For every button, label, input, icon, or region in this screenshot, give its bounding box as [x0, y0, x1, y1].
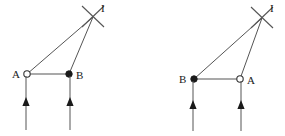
diagram-canvas: A B I: [0, 0, 285, 136]
point-marker-open-circle-a: [237, 76, 243, 82]
incident-arrow-right: [66, 76, 73, 130]
point-marker-open-circle-a: [24, 71, 30, 77]
incident-arrow-left: [189, 81, 196, 131]
ray-a-to-i: [240, 18, 262, 79]
label-image-point-i: I: [101, 2, 105, 14]
ray-diagram-figure: A B I: [0, 0, 285, 136]
incident-arrow-right: [237, 81, 244, 131]
incident-arrow-left: [22, 76, 29, 130]
label-point-b: B: [76, 69, 83, 81]
label-point-a: A: [247, 74, 255, 86]
label-point-a: A: [12, 68, 20, 80]
point-marker-filled-circle-b: [66, 71, 72, 77]
diagram-right: B A I: [179, 2, 274, 131]
diagram-left: A B I: [12, 2, 105, 130]
label-point-b: B: [179, 73, 186, 85]
point-marker-filled-circle-b: [191, 76, 197, 82]
label-image-point-i: I: [270, 2, 274, 14]
ray-b-to-i: [69, 17, 93, 74]
